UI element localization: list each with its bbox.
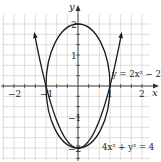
y-axis-arrow-icon xyxy=(76,5,81,11)
plot-area: −2−11221−1−2 x y y = 2x² − 2 4x² + y² = … xyxy=(0,0,161,162)
y-tick-label: 1 xyxy=(71,51,77,61)
labels: x y y = 2x² − 2 4x² + y² = 4 xyxy=(68,1,161,152)
y-tick-label: −1 xyxy=(68,113,81,123)
x-tick-label: −2 xyxy=(8,89,21,99)
grid-lines xyxy=(2,14,150,160)
y-axis-label: y xyxy=(68,1,75,12)
x-tick-label: 2 xyxy=(139,89,145,99)
ellipse-equation-label: 4x² + y² = 4 xyxy=(102,142,154,152)
parabola-equation-label: y = 2x² − 2 xyxy=(111,69,161,79)
x-axis-label: x xyxy=(152,87,158,98)
